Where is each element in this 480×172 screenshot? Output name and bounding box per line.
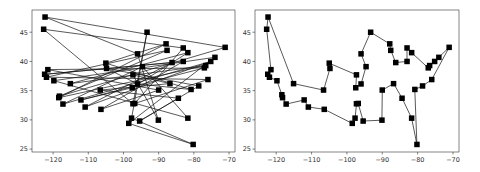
city-marker (354, 72, 360, 78)
x-tick-label: −80 (411, 156, 425, 164)
y-tick-label: 40 (20, 58, 28, 66)
city-marker (169, 60, 175, 66)
city-marker (181, 59, 187, 64)
city-marker (181, 45, 187, 51)
city-marker (301, 97, 307, 103)
city-marker (205, 77, 211, 83)
city-marker (222, 45, 228, 51)
city-marker (274, 78, 280, 84)
x-tick-label: −110 (303, 156, 321, 164)
city-marker (404, 59, 410, 64)
city-marker (267, 75, 273, 81)
city-marker (185, 50, 191, 56)
city-marker (137, 118, 143, 124)
x-tick-label: −110 (79, 156, 97, 164)
city-marker (409, 115, 415, 121)
city-marker (203, 63, 209, 69)
city-marker (368, 30, 374, 36)
city-marker (103, 60, 109, 66)
city-marker (164, 48, 170, 54)
city-marker (163, 41, 169, 47)
city-marker (265, 14, 271, 19)
y-tick-label: 35 (243, 87, 251, 95)
city-marker (327, 60, 333, 66)
city-marker (358, 51, 364, 57)
city-marker (176, 96, 182, 102)
city-marker (350, 121, 356, 127)
x-tick-label: −90 (375, 156, 389, 164)
x-tick-label: −100 (115, 156, 133, 164)
x-tick-label: −70 (446, 156, 460, 164)
city-marker (82, 104, 88, 110)
x-tick-label: −80 (187, 156, 201, 164)
city-marker (426, 65, 432, 71)
city-marker (140, 64, 146, 70)
city-marker (144, 30, 150, 36)
city-marker (130, 72, 136, 78)
city-marker (322, 107, 328, 113)
city-marker (98, 87, 104, 93)
y-tick-label: 40 (243, 58, 251, 66)
city-marker (283, 101, 289, 107)
x-tick-label: −90 (152, 156, 166, 164)
figure: −120−110−100−90−80−702530354045 −120−110… (0, 0, 480, 172)
optimized-tour-plot: −120−110−100−90−80−702530354045 (243, 10, 460, 164)
city-marker (399, 96, 405, 102)
y-tick-label: 25 (243, 145, 251, 153)
city-marker (446, 45, 452, 51)
city-marker (167, 81, 173, 87)
city-marker (327, 66, 333, 72)
city-marker (391, 81, 397, 87)
city-marker (393, 60, 399, 66)
city-marker (42, 14, 48, 19)
city-marker (130, 85, 136, 91)
city-marker (429, 77, 435, 83)
city-marker (264, 27, 270, 33)
city-marker (196, 83, 202, 89)
city-marker (388, 48, 394, 54)
city-marker (432, 59, 438, 64)
city-marker (135, 81, 141, 87)
city-marker (379, 117, 385, 123)
city-marker (188, 87, 194, 93)
city-marker (353, 85, 359, 91)
y-tick-label: 25 (20, 145, 28, 153)
city-marker (358, 81, 364, 87)
city-marker (360, 118, 366, 124)
city-marker (380, 87, 386, 93)
city-marker (409, 50, 415, 56)
x-tick-label: −70 (222, 156, 236, 164)
y-tick-label: 45 (20, 29, 28, 37)
city-marker (156, 117, 162, 123)
city-marker (98, 107, 104, 113)
city-marker (51, 78, 57, 84)
city-marker (190, 142, 196, 148)
y-tick-label: 30 (20, 116, 28, 124)
random-tour-plot: −120−110−100−90−80−702530354045 (20, 10, 236, 164)
city-marker (404, 45, 410, 51)
tour-route-line (267, 17, 449, 144)
city-marker (130, 101, 136, 107)
city-marker (185, 115, 191, 121)
city-marker (291, 81, 297, 87)
city-marker (321, 87, 327, 93)
city-marker (208, 59, 214, 64)
plot-area-frame (255, 10, 459, 152)
city-marker (363, 64, 369, 70)
city-marker (78, 97, 84, 103)
city-marker (104, 66, 110, 72)
city-marker (60, 101, 65, 107)
x-tick-label: −120 (44, 156, 62, 164)
city-marker (280, 95, 286, 101)
tour-route-line (44, 17, 226, 144)
y-tick-label: 35 (20, 87, 28, 95)
city-marker (56, 95, 62, 101)
city-marker (412, 87, 418, 93)
city-marker (356, 101, 362, 107)
x-tick-label: −100 (338, 156, 356, 164)
y-tick-label: 45 (243, 29, 251, 37)
city-marker (45, 67, 51, 73)
city-marker (135, 51, 141, 57)
city-marker (414, 142, 420, 148)
y-tick-label: 30 (243, 116, 251, 124)
